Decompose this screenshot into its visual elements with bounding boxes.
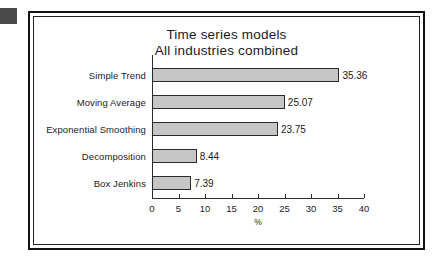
x-axis-tick <box>179 194 180 198</box>
x-axis-tick-label: 35 <box>332 203 343 214</box>
bar-row: Decomposition8.44 <box>152 149 364 163</box>
x-axis-tick-label: 10 <box>200 203 211 214</box>
category-label: Box Jenkins <box>94 177 146 188</box>
x-axis-tick-label: 15 <box>226 203 237 214</box>
bar-value-label: 7.39 <box>194 177 213 188</box>
x-axis-title: % <box>254 217 262 227</box>
category-label: Moving Average <box>77 96 146 107</box>
bar-value-label: 25.07 <box>288 96 313 107</box>
slide-frame: Time series models All industries combin… <box>28 11 425 250</box>
bar: 8.44 <box>152 149 197 163</box>
bar: 23.75 <box>152 122 278 136</box>
bar-value-label: 23.75 <box>281 123 306 134</box>
x-axis-tick-label: 20 <box>253 203 264 214</box>
x-axis-tick-label: 5 <box>176 203 181 214</box>
x-axis-tick <box>338 194 339 198</box>
x-axis-tick-label: 40 <box>359 203 370 214</box>
corner-square-marker <box>0 8 17 24</box>
bar: 35.36 <box>152 68 339 82</box>
x-axis-tick-label: 25 <box>279 203 290 214</box>
x-axis-tick <box>285 194 286 198</box>
x-axis-tick <box>232 194 233 198</box>
x-axis-line <box>152 198 364 199</box>
x-axis-tick <box>311 194 312 198</box>
x-axis-tick <box>258 194 259 198</box>
x-axis-tick-label: 30 <box>306 203 317 214</box>
x-axis-tick <box>364 194 365 198</box>
bar-row: Exponential Smoothing23.75 <box>152 122 364 136</box>
bar-value-label: 8.44 <box>200 150 219 161</box>
bar-row: Box Jenkins7.39 <box>152 176 364 190</box>
chart-area: Time series models All industries combin… <box>30 13 423 248</box>
x-axis-tick <box>205 194 206 198</box>
category-label: Decomposition <box>82 150 146 161</box>
x-axis-tick-label: 0 <box>149 203 154 214</box>
bar: 7.39 <box>152 176 191 190</box>
bar-row: Moving Average25.07 <box>152 95 364 109</box>
bar: 25.07 <box>152 95 285 109</box>
category-label: Simple Trend <box>89 69 146 80</box>
bar-row: Simple Trend35.36 <box>152 68 364 82</box>
bar-value-label: 35.36 <box>342 69 367 80</box>
x-axis-tick <box>152 194 153 198</box>
plot-region: % Simple Trend35.36Moving Average25.07Ex… <box>30 13 423 248</box>
category-label: Exponential Smoothing <box>46 123 146 134</box>
